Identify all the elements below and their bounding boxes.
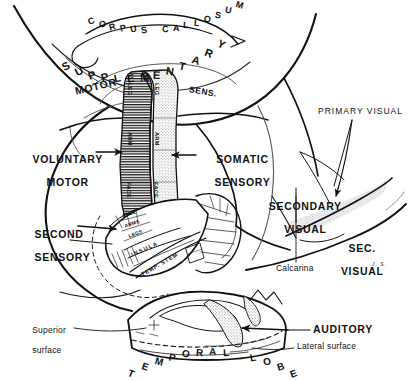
arc-char: C [86, 15, 96, 27]
arc-char: L [183, 20, 189, 30]
superior-surface-line1: Superior [32, 325, 66, 335]
sensory-leg-label: LEG [154, 83, 160, 95]
second-sensory-line2: SENSORY [34, 251, 90, 263]
arc-char: O [97, 18, 107, 30]
artist-signature: J. S. [372, 262, 387, 267]
second-sensory-label: SECOND SENSORY [20, 218, 90, 275]
arc-char: T [126, 367, 136, 379]
arc-char: S [214, 10, 222, 21]
arc-char: L [193, 17, 199, 27]
sensory-face-label: FACE [153, 182, 159, 198]
arc-char: E [153, 68, 161, 80]
primary-visual-label: PRIMARY VISUAL [318, 107, 403, 116]
arc-char: R [195, 346, 203, 358]
arc-char: A [190, 53, 201, 67]
arc-char: O [262, 355, 272, 367]
figure-root: CORPUS CALLOSUM SUPPLEMENTARY MOTOR SENS… [0, 0, 415, 381]
sensory-arm-label: ARM [154, 132, 160, 146]
arc-char: R [108, 21, 117, 32]
arc-char: U [129, 24, 137, 35]
arc-char: P [167, 351, 176, 363]
arc-char: S [59, 59, 71, 73]
temporal-lobe-label: TEMPORAL LOBE [128, 344, 304, 378]
secondary-visual-line1: SECONDARY [269, 200, 342, 212]
lateral-surface-label: Lateral surface [297, 342, 356, 351]
motor-arm-label: ARM [127, 132, 133, 146]
auditory-label: AUDITORY [313, 324, 373, 335]
arc-char: E [140, 360, 150, 373]
arc-char: E [288, 367, 298, 380]
voluntary-motor-line2: MOTOR [47, 176, 89, 188]
second-sensory-line1: SECOND [34, 228, 83, 240]
arc-char: U [73, 64, 85, 78]
arc-char: T [178, 59, 187, 72]
motor-face-label: FACE [126, 182, 132, 198]
arc-char: N [165, 64, 174, 77]
arc-char: L [222, 346, 229, 357]
arc-char: A [173, 22, 180, 32]
arc-char: M [140, 71, 150, 83]
arc-char: O [181, 348, 190, 360]
superior-surface-line2: surface [32, 345, 61, 355]
arc-char: O [204, 14, 212, 25]
somatic-sensory-line1: SOMATIC [216, 153, 269, 165]
arc-char: C [162, 24, 169, 34]
sec-visual-line1: SEC. [349, 242, 376, 254]
calcarina-label: Calcarina [276, 264, 314, 273]
arc-char: B [275, 360, 285, 373]
arc-char: P [119, 23, 127, 34]
arc-char: L [249, 351, 257, 363]
voluntary-motor-line1: VOLUNTARY [32, 153, 102, 165]
superior-surface-label: Superior surface [22, 315, 66, 365]
arc-char: M [154, 355, 165, 368]
arc-char: S [140, 25, 147, 36]
motor-leg-label: LEG [127, 83, 133, 95]
voluntary-motor-label: VOLUNTARY MOTOR [18, 143, 103, 200]
somatic-sensory-line2: SENSORY [214, 176, 270, 188]
arc-char: A [209, 346, 216, 357]
